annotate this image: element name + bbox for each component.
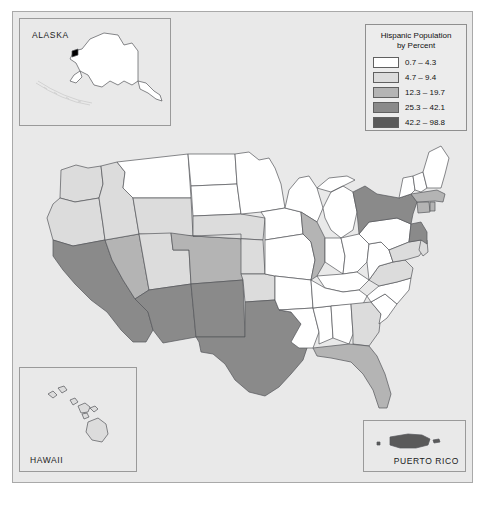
legend-title-line1: Hispanic Population (372, 31, 460, 41)
legend-title-line2: by Percent (372, 41, 460, 51)
map-legend: Hispanic Population by Percent 0.7 – 4.3… (365, 24, 467, 131)
legend-row-0[interactable]: 0.7 – 4.3 (372, 55, 460, 69)
legend-row-4[interactable]: 42.2 – 98.8 (372, 115, 460, 129)
state-AK-panhandle[interactable] (138, 81, 162, 101)
hawaii-label: HAWAII (30, 455, 63, 465)
state-OR[interactable] (47, 198, 105, 246)
legend-class-list: 0.7 – 4.34.7 – 9.412.3 – 19.725.3 – 42.1… (372, 55, 460, 129)
state-FL[interactable] (313, 344, 391, 408)
state-AK[interactable] (70, 33, 138, 87)
state-OK[interactable] (241, 274, 275, 302)
puertorico-inset: PUERTO RICO (363, 420, 466, 472)
state-WA[interactable] (60, 165, 103, 202)
legend-label-3: 25.3 – 42.1 (405, 103, 445, 112)
state-SD[interactable] (191, 184, 241, 216)
hawaii-inset: HAWAII (19, 367, 137, 472)
legend-swatch-2 (373, 87, 399, 98)
legend-label-2: 12.3 – 19.7 (405, 88, 445, 97)
state-AL[interactable] (331, 304, 353, 344)
state-WY[interactable] (133, 198, 193, 236)
state-ND[interactable] (188, 154, 237, 186)
state-CT[interactable] (417, 202, 430, 213)
legend-label-4: 42.2 – 98.8 (405, 118, 445, 127)
legend-row-1[interactable]: 4.7 – 9.4 (372, 70, 460, 84)
legend-label-1: 4.7 – 9.4 (405, 73, 436, 82)
legend-title: Hispanic Population by Percent (372, 31, 460, 51)
alaska-inset: ALASKA (19, 18, 171, 126)
state-NJ[interactable] (409, 222, 427, 244)
state-MN[interactable] (235, 152, 285, 214)
aleutian-islands (36, 81, 92, 105)
state-MT[interactable] (117, 154, 191, 198)
legend-swatch-1 (373, 72, 399, 83)
puerto-rico-label: PUERTO RICO (394, 456, 459, 466)
state-PR-mona (377, 442, 380, 445)
legend-row-3[interactable]: 25.3 – 42.1 (372, 100, 460, 114)
state-AR[interactable] (275, 276, 313, 310)
legend-swatch-3 (373, 102, 399, 113)
legend-swatch-4 (373, 117, 399, 128)
map-panel: ALASKA HAWAII (12, 11, 473, 483)
state-ME[interactable] (423, 146, 449, 188)
choropleth-map-figure: ALASKA HAWAII (0, 0, 485, 505)
legend-row-2[interactable]: 12.3 – 19.7 (372, 85, 460, 99)
state-NM[interactable] (191, 280, 245, 337)
legend-label-0: 0.7 – 4.3 (405, 58, 436, 67)
state-PR[interactable] (390, 434, 430, 448)
state-HI[interactable] (48, 386, 108, 442)
legend-swatch-0 (373, 57, 399, 68)
alaska-label: ALASKA (32, 30, 69, 40)
state-MO[interactable] (265, 234, 315, 280)
state-RI[interactable] (430, 202, 435, 211)
state-MA[interactable] (411, 190, 445, 202)
state-PR-vieques (433, 439, 440, 443)
